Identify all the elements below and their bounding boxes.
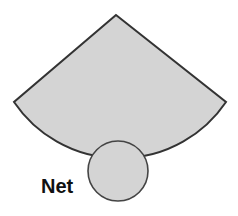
base-circle <box>88 141 148 201</box>
sector-shape <box>14 15 226 158</box>
cone-net-diagram <box>0 0 238 216</box>
net-label: Net <box>41 175 73 198</box>
